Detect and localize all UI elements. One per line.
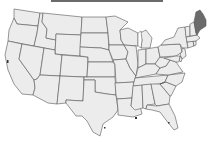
state-pennsylvania[interactable] — [158, 44, 182, 57]
city-marker — [7, 60, 9, 63]
state-wisconsin[interactable] — [120, 28, 138, 46]
state-wyoming[interactable] — [55, 34, 81, 56]
state-washington[interactable] — [14, 9, 40, 26]
state-vermont[interactable] — [185, 26, 190, 37]
city-marker — [135, 117, 137, 119]
city-marker — [168, 122, 170, 124]
state-maine[interactable] — [194, 10, 206, 35]
state-kansas[interactable] — [87, 62, 115, 77]
city-marker — [104, 127, 106, 129]
state-arkansas[interactable] — [115, 82, 134, 99]
state-north-dakota[interactable] — [81, 17, 108, 33]
us-map — [0, 0, 209, 141]
lake-michigan — [138, 31, 142, 48]
state-colorado[interactable] — [60, 55, 88, 77]
state-new-mexico[interactable] — [57, 76, 84, 104]
state-arizona[interactable] — [33, 75, 60, 104]
state-florida[interactable] — [146, 104, 178, 130]
state-mississippi[interactable] — [131, 85, 143, 110]
